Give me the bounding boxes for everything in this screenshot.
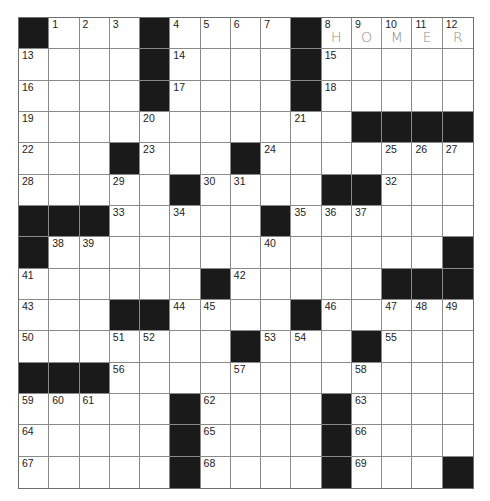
grid-cell[interactable]	[412, 457, 442, 488]
grid-cell[interactable]: 60	[49, 394, 79, 425]
grid-cell[interactable]	[412, 81, 442, 112]
grid-cell[interactable]	[80, 81, 110, 112]
grid-cell[interactable]: 5	[201, 18, 231, 49]
grid-cell[interactable]: 16	[19, 81, 49, 112]
grid-cell[interactable]: 44	[170, 300, 200, 331]
grid-cell[interactable]: 68	[201, 457, 231, 488]
grid-cell[interactable]: 19	[19, 112, 49, 143]
grid-cell[interactable]	[110, 425, 140, 456]
grid-cell[interactable]: 15	[322, 49, 352, 80]
grid-cell[interactable]	[49, 269, 79, 300]
grid-cell[interactable]	[352, 81, 382, 112]
grid-cell[interactable]	[140, 394, 170, 425]
grid-cell[interactable]: 55	[382, 331, 412, 362]
grid-cell[interactable]: 41	[19, 269, 49, 300]
grid-cell[interactable]	[412, 206, 442, 237]
grid-cell[interactable]	[110, 394, 140, 425]
grid-cell[interactable]	[382, 237, 412, 268]
grid-cell[interactable]	[412, 49, 442, 80]
grid-cell[interactable]	[49, 425, 79, 456]
grid-cell[interactable]	[49, 81, 79, 112]
grid-cell[interactable]	[231, 237, 261, 268]
grid-cell[interactable]	[49, 112, 79, 143]
grid-cell[interactable]: 31	[231, 175, 261, 206]
grid-cell[interactable]: 8H	[322, 18, 352, 49]
grid-cell[interactable]	[201, 237, 231, 268]
grid-cell[interactable]: 14	[170, 49, 200, 80]
grid-cell[interactable]	[80, 425, 110, 456]
grid-cell[interactable]	[49, 49, 79, 80]
grid-cell[interactable]: 4	[170, 18, 200, 49]
grid-cell[interactable]	[382, 81, 412, 112]
grid-cell[interactable]: 67	[19, 457, 49, 488]
grid-cell[interactable]: 25	[382, 143, 412, 174]
grid-cell[interactable]: 38	[49, 237, 79, 268]
grid-cell[interactable]: 65	[201, 425, 231, 456]
grid-cell[interactable]	[382, 457, 412, 488]
grid-cell[interactable]: 34	[170, 206, 200, 237]
grid-cell[interactable]: 43	[19, 300, 49, 331]
grid-cell[interactable]: 3	[110, 18, 140, 49]
grid-cell[interactable]	[80, 269, 110, 300]
grid-cell[interactable]	[140, 457, 170, 488]
grid-cell[interactable]: 11E	[412, 18, 442, 49]
grid-cell[interactable]	[352, 49, 382, 80]
grid-cell[interactable]	[110, 112, 140, 143]
grid-cell[interactable]	[231, 425, 261, 456]
grid-cell[interactable]: 22	[19, 143, 49, 174]
grid-cell[interactable]: 20	[140, 112, 170, 143]
grid-cell[interactable]	[261, 363, 291, 394]
grid-cell[interactable]	[140, 206, 170, 237]
grid-cell[interactable]	[322, 269, 352, 300]
grid-cell[interactable]	[170, 363, 200, 394]
grid-cell[interactable]	[110, 81, 140, 112]
grid-cell[interactable]	[322, 143, 352, 174]
grid-cell[interactable]	[80, 112, 110, 143]
grid-cell[interactable]	[382, 49, 412, 80]
grid-cell[interactable]: 2	[80, 18, 110, 49]
grid-cell[interactable]	[412, 331, 442, 362]
grid-cell[interactable]	[443, 206, 473, 237]
grid-cell[interactable]: 21	[291, 112, 321, 143]
grid-cell[interactable]	[140, 425, 170, 456]
grid-cell[interactable]	[443, 425, 473, 456]
grid-cell[interactable]	[201, 363, 231, 394]
grid-cell[interactable]	[412, 394, 442, 425]
grid-cell[interactable]	[261, 175, 291, 206]
grid-cell[interactable]: 62	[201, 394, 231, 425]
grid-cell[interactable]	[231, 457, 261, 488]
grid-cell[interactable]	[443, 81, 473, 112]
grid-cell[interactable]	[201, 49, 231, 80]
grid-cell[interactable]	[110, 269, 140, 300]
grid-cell[interactable]	[80, 331, 110, 362]
grid-cell[interactable]	[322, 112, 352, 143]
grid-cell[interactable]: 24	[261, 143, 291, 174]
grid-cell[interactable]	[201, 112, 231, 143]
grid-cell[interactable]	[322, 237, 352, 268]
grid-cell[interactable]	[80, 143, 110, 174]
grid-cell[interactable]	[261, 81, 291, 112]
grid-cell[interactable]	[140, 363, 170, 394]
grid-cell[interactable]: 40	[261, 237, 291, 268]
grid-cell[interactable]: 64	[19, 425, 49, 456]
grid-cell[interactable]	[80, 175, 110, 206]
grid-cell[interactable]: 56	[110, 363, 140, 394]
grid-cell[interactable]	[443, 175, 473, 206]
grid-cell[interactable]	[291, 269, 321, 300]
grid-cell[interactable]: 6	[231, 18, 261, 49]
grid-cell[interactable]	[231, 49, 261, 80]
grid-cell[interactable]: 36	[322, 206, 352, 237]
grid-cell[interactable]	[291, 237, 321, 268]
grid-cell[interactable]: 13	[19, 49, 49, 80]
grid-cell[interactable]: 54	[291, 331, 321, 362]
grid-cell[interactable]	[291, 457, 321, 488]
grid-cell[interactable]	[110, 457, 140, 488]
grid-cell[interactable]	[291, 425, 321, 456]
grid-cell[interactable]: 17	[170, 81, 200, 112]
grid-cell[interactable]: 66	[352, 425, 382, 456]
grid-cell[interactable]	[261, 394, 291, 425]
grid-cell[interactable]	[382, 394, 412, 425]
grid-cell[interactable]	[352, 143, 382, 174]
grid-cell[interactable]: 37	[352, 206, 382, 237]
grid-cell[interactable]	[170, 143, 200, 174]
